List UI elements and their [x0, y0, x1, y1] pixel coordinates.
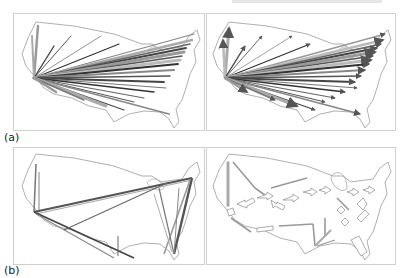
us-outline — [22, 154, 200, 260]
map-b-left — [14, 148, 206, 266]
panel-b-right — [206, 147, 396, 265]
map-b-right — [207, 148, 397, 266]
row-label-b: (b) — [4, 264, 20, 277]
panel-a-right — [206, 13, 396, 131]
bundled-arrows — [227, 162, 375, 256]
cropped-caption-strip — [232, 0, 382, 3]
panel-a-left — [13, 13, 205, 131]
map-a-left — [14, 14, 206, 132]
great-lakes-outline — [331, 173, 347, 191]
bundled-edges — [34, 164, 192, 258]
panel-b-left — [13, 147, 205, 265]
row-label-a: (a) — [4, 131, 19, 144]
map-a-right — [207, 14, 397, 132]
flow-lines — [32, 26, 194, 114]
flow-arrows — [223, 28, 385, 114]
